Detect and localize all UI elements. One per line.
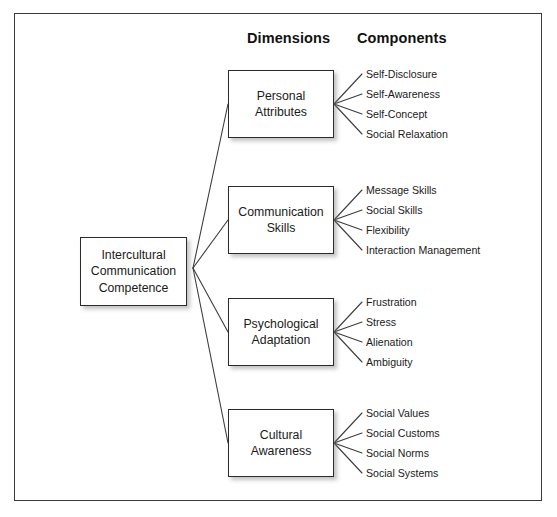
dimension-node-label: Cultural Awareness	[247, 427, 316, 460]
column-header-components: Components	[357, 30, 447, 46]
center-node: Intercultural Communication Competence	[80, 237, 187, 306]
dimension-node-cultural-awareness: Cultural Awareness	[228, 409, 334, 477]
component-label: Social Customs	[366, 427, 440, 439]
diagram-canvas: Dimensions Components Intercultural Comm…	[0, 0, 557, 517]
component-label: Self-Awareness	[366, 88, 440, 100]
component-label: Social Values	[366, 407, 429, 419]
component-label: Message Skills	[366, 184, 437, 196]
dimension-node-personal-attributes: Personal Attributes	[228, 70, 334, 138]
component-label: Social Relaxation	[366, 128, 448, 140]
component-label: Frustration	[366, 296, 417, 308]
dimension-node-label: Communication Skills	[234, 204, 327, 237]
component-label: Flexibility	[366, 224, 410, 236]
component-label: Self-Concept	[366, 108, 427, 120]
dimension-node-label: Personal Attributes	[251, 88, 311, 121]
component-label: Interaction Management	[366, 244, 480, 256]
component-label: Social Norms	[366, 447, 429, 459]
dimension-node-psychological-adaptation: Psychological Adaptation	[228, 298, 334, 366]
component-label: Alienation	[366, 336, 413, 348]
component-label: Stress	[366, 316, 396, 328]
component-label: Self-Disclosure	[366, 68, 437, 80]
component-label: Social Systems	[366, 467, 438, 479]
center-node-label: Intercultural Communication Competence	[87, 247, 180, 297]
component-label: Ambiguity	[366, 356, 413, 368]
dimension-node-label: Psychological Adaptation	[239, 316, 322, 349]
column-header-dimensions: Dimensions	[247, 30, 330, 46]
component-label: Social Skills	[366, 204, 423, 216]
dimension-node-communication-skills: Communication Skills	[228, 186, 334, 254]
